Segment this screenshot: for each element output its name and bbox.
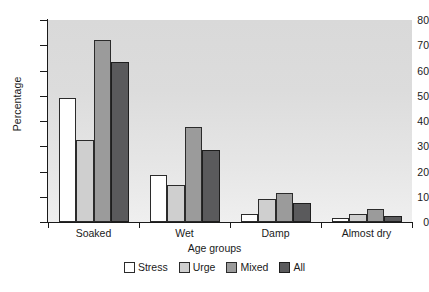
y-axis-tick-label: 40: [395, 116, 429, 127]
legend-label-urge: Urge: [193, 262, 216, 273]
bar-wet-stress: [150, 175, 168, 222]
legend: StressUrgeMixedAll: [0, 262, 429, 273]
legend-item-urge: Urge: [179, 262, 216, 273]
legend-item-stress: Stress: [124, 262, 168, 273]
y-axis-tick-label: 20: [395, 167, 429, 178]
x-axis-separator: [412, 223, 413, 228]
y-axis-tick: [40, 96, 47, 97]
y-axis-tick: [40, 121, 47, 122]
legend-label-stress: Stress: [138, 262, 168, 273]
x-axis-label-soaked: Soaked: [48, 228, 139, 239]
bar-damp-urge: [258, 199, 276, 222]
y-axis-tick-label: 60: [395, 66, 429, 77]
y-axis-tick: [40, 222, 47, 223]
bar-chart: 01020304050607080 Percentage SoakedWetDa…: [0, 0, 429, 292]
y-axis-tick: [40, 146, 47, 147]
x-axis-label-damp: Damp: [230, 228, 321, 239]
bar-almost-dry-urge: [349, 214, 367, 222]
bar-wet-all: [202, 150, 220, 222]
y-axis-tick: [40, 71, 47, 72]
y-axis-tick: [40, 197, 47, 198]
bar-almost-dry-all: [384, 216, 402, 222]
y-axis-tick-label: 80: [395, 15, 429, 26]
legend-swatch-all: [279, 262, 290, 273]
legend-label-all: All: [293, 262, 305, 273]
legend-swatch-stress: [124, 262, 135, 273]
legend-item-all: All: [279, 262, 305, 273]
y-axis-tick: [40, 20, 47, 21]
x-axis-title: Age groups: [0, 242, 429, 254]
bar-soaked-all: [111, 62, 129, 222]
y-axis-tick-label: 30: [395, 141, 429, 152]
bar-wet-urge: [167, 185, 185, 222]
y-axis-tick: [40, 172, 47, 173]
bar-soaked-stress: [59, 98, 77, 222]
legend-swatch-mixed: [226, 262, 237, 273]
x-axis-label-almost-dry: Almost dry: [321, 228, 412, 239]
legend-label-mixed: Mixed: [240, 262, 268, 273]
bar-damp-all: [293, 203, 311, 222]
legend-swatch-urge: [179, 262, 190, 273]
y-axis-tick-label: 50: [395, 91, 429, 102]
y-axis-line: [47, 19, 48, 223]
bar-wet-mixed: [185, 127, 203, 222]
x-axis-label-wet: Wet: [139, 228, 230, 239]
bar-almost-dry-stress: [332, 218, 350, 222]
bar-damp-mixed: [276, 193, 294, 222]
bar-almost-dry-mixed: [367, 209, 385, 222]
y-axis-tick: [40, 45, 47, 46]
bar-soaked-urge: [76, 140, 94, 222]
bar-damp-stress: [241, 214, 259, 222]
y-axis-tick-label: 10: [395, 192, 429, 203]
y-axis-title: Percentage: [11, 59, 23, 149]
bar-soaked-mixed: [94, 40, 112, 222]
y-axis-tick-label: 70: [395, 40, 429, 51]
legend-item-mixed: Mixed: [226, 262, 268, 273]
